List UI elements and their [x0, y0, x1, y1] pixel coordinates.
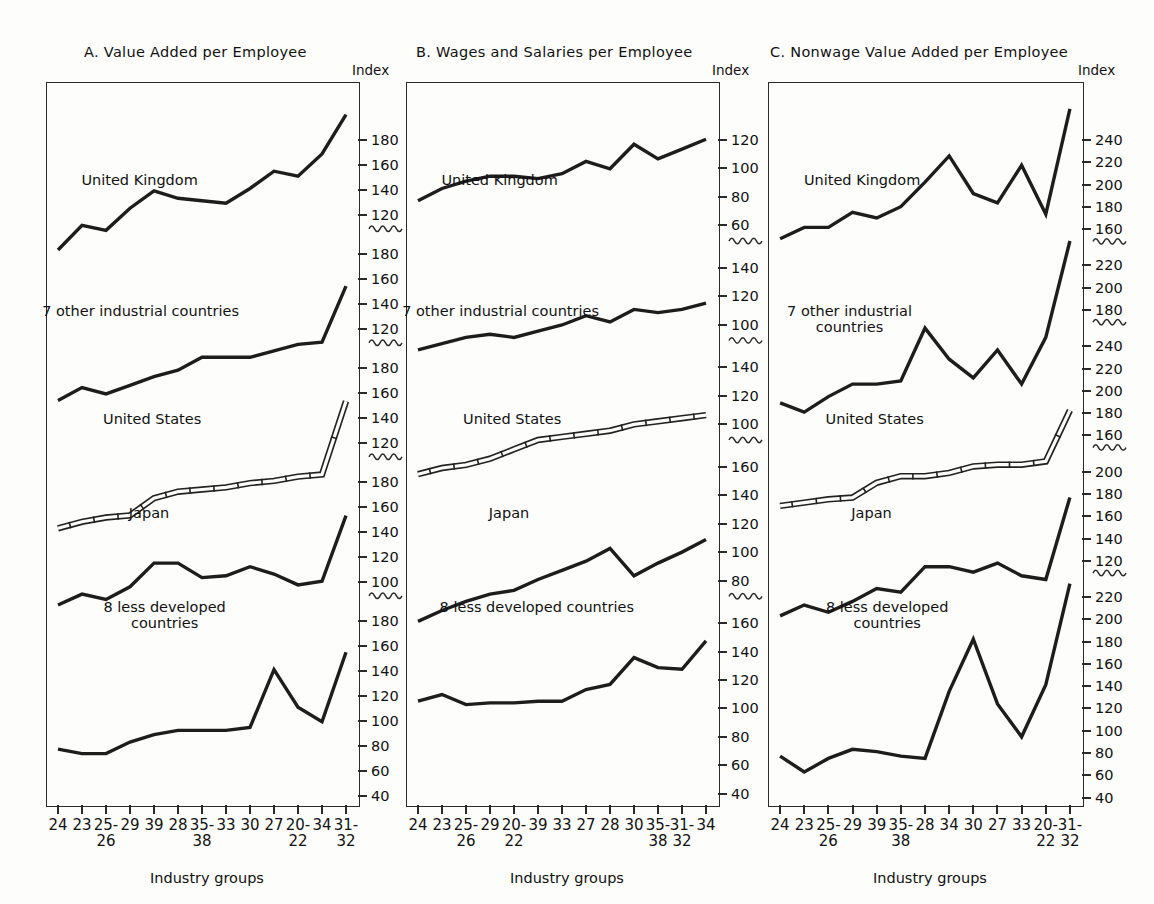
panel-B-ytick-label: 100 — [731, 161, 759, 176]
panel-B-ytick-label: 140 — [731, 645, 759, 660]
panel-C-ytick — [1082, 206, 1091, 208]
panel-C-ytick — [1082, 752, 1091, 754]
axis-break-squiggle — [1093, 570, 1126, 576]
panel-A-ytick-label: 180 — [371, 133, 399, 148]
panel-B-axis-title: Industry groups — [510, 870, 624, 886]
panel-B-xtick — [417, 805, 419, 814]
panel-B-ytick-label: 140 — [731, 261, 759, 276]
panel-B-ytick — [718, 679, 727, 681]
panel-A-ytick-label: 140 — [371, 525, 399, 540]
panel-C-ytick-label: 160 — [1095, 657, 1123, 672]
panel-B-ytick — [718, 224, 727, 226]
panel-B-xtick — [657, 805, 659, 814]
panel-C-ytick — [1082, 560, 1091, 562]
panel-B-ytick — [718, 167, 727, 169]
panel-B-ytick-label: 120 — [731, 517, 759, 532]
panel-C-ytick — [1082, 774, 1091, 776]
panel-C-xtick — [996, 805, 998, 814]
panel-B-xtick — [513, 805, 515, 814]
panel-C-ytick-label: 160 — [1095, 428, 1123, 443]
panel-A-ytick-label: 160 — [371, 158, 399, 173]
panel-A-ytick-label: 80 — [371, 739, 389, 754]
panel-C-ytick — [1082, 161, 1091, 163]
panel-A-ytick-label: 40 — [371, 789, 389, 804]
panel-B-ytick — [718, 267, 727, 269]
panel-A-xtick — [129, 805, 131, 814]
panel-B-xtick — [489, 805, 491, 814]
panel-B-xtick — [561, 805, 563, 814]
panel-B-ytick-label: 100 — [731, 417, 759, 432]
panel-B-xtick — [465, 805, 467, 814]
panel-A-ytick-label: 120 — [371, 436, 399, 451]
panel-A-ytick — [358, 253, 367, 255]
panel-C-ytick — [1082, 345, 1091, 347]
panel-A-ytick — [358, 670, 367, 672]
panel-C-ytick — [1082, 471, 1091, 473]
panel-A-ytick — [358, 417, 367, 419]
panel-A-xtick — [321, 805, 323, 814]
panel-B-ytick — [718, 295, 727, 297]
panel-C-ytick-label: 160 — [1095, 222, 1123, 237]
panel-A-ytick — [358, 214, 367, 216]
panel-A-ytick-label: 120 — [371, 322, 399, 337]
panel-C-ytick — [1082, 434, 1091, 436]
panel-C-ytick-label: 140 — [1095, 532, 1123, 547]
panel-A-xtick — [273, 805, 275, 814]
panel-B-ytick — [718, 366, 727, 368]
panel-C-ytick-label: 160 — [1095, 509, 1123, 524]
series-label-A-4: 8 less developedcountries — [80, 599, 250, 631]
panel-B-ytick — [718, 707, 727, 709]
panel-C-ytick — [1082, 641, 1091, 643]
panel-C-xtick — [779, 805, 781, 814]
panel-C-ytick-label: 180 — [1095, 200, 1123, 215]
panel-A-title: A. Value Added per Employee — [84, 44, 307, 60]
panel-A-xtick — [201, 805, 203, 814]
panel-A-xtick — [297, 805, 299, 814]
index-axis-label-B: Index — [712, 62, 749, 78]
panel-B-ytick-label: 120 — [731, 673, 759, 688]
panel-C-xtick — [924, 805, 926, 814]
panel-C-ytick — [1082, 309, 1091, 311]
series-label-C-2: United States — [790, 411, 960, 427]
panel-B-ytick — [718, 395, 727, 397]
panel-C-ytick — [1082, 685, 1091, 687]
panel-C-ytick-label: 120 — [1095, 554, 1123, 569]
axis-break-squiggle — [729, 594, 762, 600]
axis-break-squiggle — [369, 340, 402, 346]
panel-C-ytick-label: 200 — [1095, 384, 1123, 399]
panel-A-ytick — [358, 770, 367, 772]
series-label-C-0: United Kingdom — [777, 172, 947, 188]
series-label-C-3: Japan — [787, 505, 957, 521]
panel-B-ytick-label: 40 — [731, 787, 749, 802]
panel-A-ytick-label: 160 — [371, 639, 399, 654]
panel-A-ytick — [358, 645, 367, 647]
axis-break-squiggle — [369, 454, 402, 460]
panel-A-ytick — [358, 695, 367, 697]
axis-break-squiggle — [1093, 445, 1126, 451]
panel-C-xtick — [1045, 805, 1047, 814]
panel-A-ytick-label: 100 — [371, 714, 399, 729]
panel-B-ytick — [718, 622, 727, 624]
series-label-C-4: 8 less developedcountries — [802, 599, 972, 631]
panel-C-ytick-label: 220 — [1095, 258, 1123, 273]
panel-C-xtick — [972, 805, 974, 814]
panel-B-xtick — [705, 805, 707, 814]
panel-A-xtick — [81, 805, 83, 814]
panel-C-ytick — [1082, 538, 1091, 540]
panel-A-ytick — [358, 139, 367, 141]
panel-C-xtick — [803, 805, 805, 814]
panel-A-ytick — [358, 392, 367, 394]
panel-B-ytick — [718, 580, 727, 582]
panel-C-ytick-label: 140 — [1095, 679, 1123, 694]
series-label-A-1: 7 other industrial countries — [42, 303, 212, 319]
panel-C-ytick — [1082, 368, 1091, 370]
panel-C-ytick-label: 240 — [1095, 339, 1123, 354]
panel-A-ytick — [358, 620, 367, 622]
panel-C-ytick-label: 180 — [1095, 406, 1123, 421]
panel-B-ytick-label: 120 — [731, 289, 759, 304]
panel-B-xtick-label: 34 — [689, 818, 723, 834]
panel-B-ytick — [718, 651, 727, 653]
axis-break-squiggle — [729, 338, 762, 344]
series-label-A-2: United States — [67, 411, 237, 427]
panel-A-plot-frame — [46, 82, 360, 807]
